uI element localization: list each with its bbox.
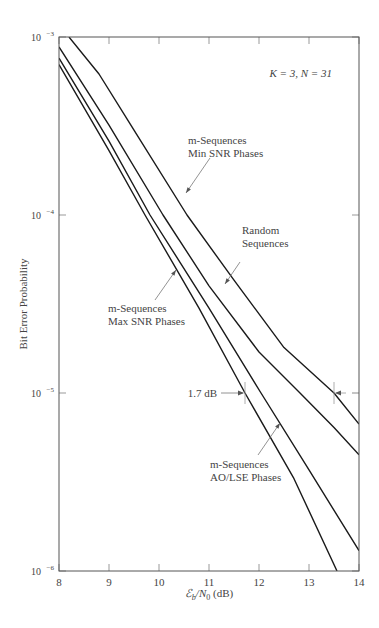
x-tick-label: 14 [354,576,366,588]
series-label: Sequences [242,237,288,249]
y-tick-labels: 10−310−410−510−6 [31,30,54,577]
y-tick-label: 10 [31,388,41,399]
parameter-annotation: K = 3, N = 31 [268,67,332,79]
series-label: m-Sequences [108,302,167,314]
y-tick-label: 10 [31,32,41,43]
x-tick-label: 13 [304,576,316,588]
series-label: m-Sequences [188,134,247,146]
arrow-head-icon [275,423,280,429]
y-tick-exponent: −6 [47,564,55,572]
data-curves [59,37,359,571]
arrow-head-icon [225,278,230,284]
y-tick-label: 10 [31,210,41,221]
series-label: Min SNR Phases [188,147,263,159]
y-tick-label: 10 [31,566,41,577]
y-tick-exponent: −4 [47,208,55,216]
x-tick-label: 8 [56,576,62,588]
series-label: AO/LSE Phases [210,471,281,483]
x-tick-label: 10 [154,576,166,588]
curve-m-sequences-max-snr-phases [59,58,359,551]
x-tick-label: 9 [106,576,112,588]
x-tick-label: 12 [254,576,265,588]
x-axis-label: ℰb/N0 (dB) [185,587,234,602]
leader-line [258,423,280,455]
delta-label: 1.7 dB [188,387,217,399]
arrow-head-icon [171,270,176,276]
y-tick-exponent: −3 [47,30,55,38]
y-axis-label: Bit Error Probability [17,258,29,350]
leader-line [186,158,210,193]
series-label: Random [242,224,280,236]
bit-error-probability-chart: m-SequencesMin SNR PhasesRandomSequences… [0,0,379,628]
curve-m-sequences-min-snr-phases [69,37,359,424]
y-tick-exponent: −5 [47,386,55,394]
arrow-head-icon [186,187,191,193]
series-label: Max SNR Phases [108,315,185,327]
series-label: m-Sequences [210,458,269,470]
arrow-right-icon [238,391,244,396]
